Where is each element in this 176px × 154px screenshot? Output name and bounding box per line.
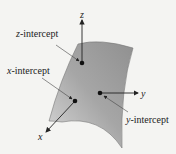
intercepts-diagram: z y x z-intercept x-intercept y-intercep… [0, 0, 176, 154]
x-intercept-label: x-intercept [6, 65, 50, 76]
x-axis-label: x [37, 131, 43, 142]
z-axis-label: z [79, 9, 84, 20]
y-intercept-point [98, 91, 103, 96]
z-intercept-point [80, 61, 85, 66]
surface [49, 42, 133, 148]
y-intercept-label: y-intercept [125, 114, 169, 125]
y-axis-label: y [140, 88, 146, 99]
z-intercept-label: z-intercept [15, 28, 58, 39]
x-intercept-point [73, 99, 78, 104]
